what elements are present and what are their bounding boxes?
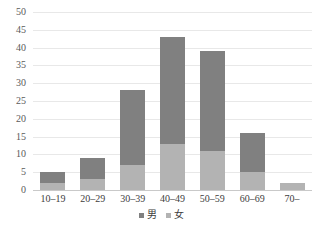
x-axis-tick-label: 10–19 (40, 192, 65, 206)
y-axis-tick-label: 30 (16, 78, 26, 88)
bar-segment-male (80, 158, 105, 179)
bar-segment-male (120, 90, 145, 165)
bar-segment-female (40, 183, 65, 190)
bar-group (160, 37, 185, 190)
bar-group (120, 90, 145, 190)
legend-swatch-icon (166, 213, 171, 218)
y-axis-tick-label: 35 (16, 60, 26, 70)
bar-segment-female (200, 151, 225, 190)
legend-label: 男 (147, 210, 157, 220)
y-axis-tick-label: 20 (16, 114, 26, 124)
bar-segment-female (280, 183, 305, 190)
legend-item[interactable]: 男 (139, 210, 157, 220)
x-axis-tick-label: 30–39 (120, 192, 145, 206)
x-axis-tick-label: 50–59 (200, 192, 225, 206)
y-axis-tick-label: 10 (16, 149, 26, 159)
bars-layer (33, 12, 312, 190)
chart-legend: 男女 (0, 210, 323, 220)
bar-segment-female (240, 172, 265, 190)
y-axis-tick-label: 15 (16, 132, 26, 142)
legend-item[interactable]: 女 (166, 210, 184, 220)
y-axis-tick-label: 5 (21, 167, 26, 177)
bar-group (40, 172, 65, 190)
bar-group (80, 158, 105, 190)
y-axis-tick-label: 0 (21, 185, 26, 195)
x-axis-tick-label: 60–69 (240, 192, 265, 206)
plot-area (33, 12, 312, 190)
bar-group (280, 183, 305, 190)
bar-segment-male (200, 51, 225, 151)
gridline (33, 190, 312, 191)
bar-segment-male (40, 172, 65, 183)
y-axis-tick-label: 40 (16, 43, 26, 53)
bar-group (200, 51, 225, 190)
stacked-bar-chart: 50454035302520151050 10–1920–2930–3940–4… (0, 0, 323, 232)
legend-label: 女 (174, 210, 184, 220)
bar-segment-female (120, 165, 145, 190)
bar-segment-male (160, 37, 185, 144)
x-axis-tick-label: 40–49 (160, 192, 185, 206)
y-axis: 50454035302520151050 (0, 12, 30, 190)
y-axis-tick-label: 45 (16, 25, 26, 35)
bar-segment-female (160, 144, 185, 190)
x-axis: 10–1920–2930–3940–4950–5960–6970– (33, 192, 312, 208)
bar-segment-male (240, 133, 265, 172)
y-axis-tick-label: 50 (16, 7, 26, 17)
x-axis-tick-label: 20–29 (80, 192, 105, 206)
legend-swatch-icon (139, 213, 144, 218)
bar-group (240, 133, 265, 190)
bar-segment-female (80, 179, 105, 190)
y-axis-tick-label: 25 (16, 96, 26, 106)
x-axis-tick-label: 70– (285, 192, 300, 206)
